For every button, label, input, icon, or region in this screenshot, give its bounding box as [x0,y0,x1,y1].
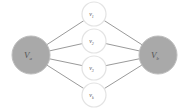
node-vk-circle [82,83,106,107]
edge-v2-Vb [106,44,140,51]
node-Va: Va [12,36,50,74]
node-v2-circle [82,29,106,53]
node-v2: v2 [82,29,106,53]
edge-Va-vk [47,65,84,88]
bipartite-graph-diagram: VaVbv1v2v3vk [0,0,188,111]
edge-v1-Vb [104,20,142,44]
edge-v3-Vb [106,59,140,66]
node-vk: vk [82,83,106,107]
edge-Va-v2 [50,44,83,51]
edge-Va-v3 [50,59,83,66]
node-Vb-circle [139,36,177,74]
node-Va-circle [12,36,50,74]
node-v3: v3 [82,56,106,80]
node-Vb: Vb [139,36,177,74]
edge-vk-Vb [104,65,142,89]
node-v1: v1 [82,2,106,26]
nodes: VaVbv1v2v3vk [12,2,177,107]
edge-Va-v1 [47,21,84,45]
node-v3-circle [82,56,106,80]
node-v1-circle [82,2,106,26]
